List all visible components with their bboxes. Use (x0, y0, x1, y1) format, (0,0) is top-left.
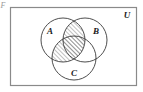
venn-diagram-canvas: A B C U F (0, 0, 143, 92)
set-label-b: B (92, 26, 99, 36)
figure-corner-mark: F (0, 1, 6, 10)
set-label-c: C (71, 68, 78, 78)
universal-set-label: U (124, 10, 131, 20)
venn-diagram-figure: A B C U F (0, 0, 143, 92)
set-label-a: A (46, 26, 53, 36)
